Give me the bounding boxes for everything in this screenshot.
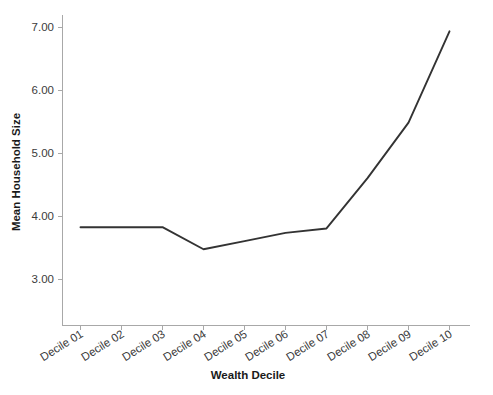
y-tick-label: 5.00 [32, 147, 54, 159]
y-tick-label: 7.00 [32, 21, 54, 33]
line-chart-canvas: 7.00 6.00 5.00 4.00 3.00 Decile 01 Decil… [0, 0, 493, 395]
chart-figure: 7.00 6.00 5.00 4.00 3.00 Decile 01 Decil… [0, 0, 493, 395]
x-axis-title: Wealth Decile [211, 369, 286, 381]
y-tick-label: 4.00 [32, 210, 54, 222]
y-tick-label: 3.00 [32, 273, 54, 285]
y-axis-title: Mean Household Size [10, 113, 22, 231]
y-tick-label: 6.00 [32, 84, 54, 96]
